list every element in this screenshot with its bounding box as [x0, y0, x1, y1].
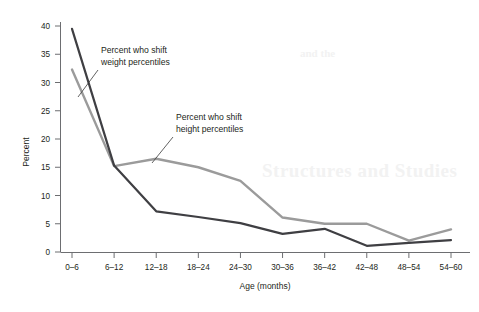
weight-annotation-line2: weight percentiles: [100, 57, 170, 67]
y-tick-label: 15: [41, 163, 51, 172]
y-tick-label: 5: [45, 220, 50, 229]
y-tick-label: 0: [45, 248, 50, 257]
x-axis-title: Age (months): [239, 281, 290, 291]
x-tick-label: 18–24: [187, 263, 210, 272]
y-tick-label: 40: [41, 22, 51, 31]
height-annotation-line2: height percentiles: [176, 124, 243, 134]
y-tick-label: 35: [41, 50, 51, 59]
chart-figure: Structures and Studies and the 051015202…: [0, 0, 479, 312]
x-tick-label: 36–42: [313, 263, 336, 272]
y-axis-ticks: [55, 26, 61, 252]
y-axis-title: Percent: [21, 137, 31, 167]
y-tick-label: 30: [41, 79, 51, 88]
series-line-height: [72, 70, 451, 241]
x-tick-label: 12–18: [145, 263, 168, 272]
x-tick-label: 0–6: [65, 263, 79, 272]
weight-annotation-leader-line: [78, 70, 98, 97]
weight-annotation-group: Percent who shift weight percentiles: [78, 45, 170, 97]
height-annotation-line1: Percent who shift: [176, 112, 243, 122]
x-tick-label: 24–30: [229, 263, 252, 272]
x-tick-label: 54–60: [440, 263, 463, 272]
y-axis-tick-labels: 0510152025303540: [41, 22, 51, 257]
y-tick-label: 20: [41, 135, 51, 144]
height-annotation-group: Percent who shift height percentiles: [152, 112, 243, 163]
line-chart: 0510152025303540 0–66–1212–1818–2424–303…: [0, 0, 479, 312]
y-tick-label: 10: [41, 192, 51, 201]
x-tick-label: 6–12: [105, 263, 124, 272]
x-tick-label: 42–48: [355, 263, 378, 272]
y-tick-label: 25: [41, 107, 51, 116]
x-axis-tick-labels: 0–66–1212–1818–2424–3030–3636–4242–4848–…: [65, 263, 463, 272]
x-tick-label: 48–54: [397, 263, 420, 272]
x-axis-ticks: [72, 253, 451, 259]
x-tick-label: 30–36: [271, 263, 294, 272]
weight-annotation-line1: Percent who shift: [101, 45, 168, 55]
